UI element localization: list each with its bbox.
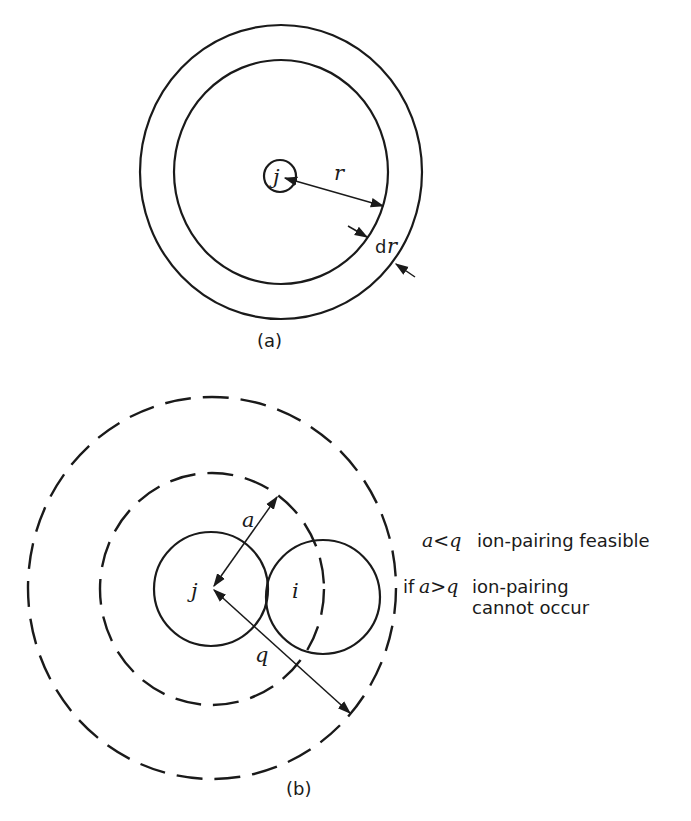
not-feasible-continuation: cannot occur: [472, 597, 590, 618]
figure-b-caption: (b): [286, 778, 311, 799]
figure-a-caption: (a): [257, 330, 282, 351]
ion-j-circle: [154, 532, 268, 646]
ion-atmosphere-diagram: j r d r (a) j i a q a<q ion-pairing feas…: [0, 0, 691, 821]
inner-shell-circle: [174, 60, 388, 284]
annotation-not-feasible: if a>q ion-pairing cannot occur: [403, 575, 590, 618]
distance-q-label: q: [255, 643, 268, 667]
annotation-feasible: a<q ion-pairing feasible: [422, 529, 650, 551]
dr-arrow-outer: [396, 264, 415, 277]
condition-a-less-q: a<q: [422, 529, 461, 551]
ion-j-label: j: [187, 579, 198, 603]
figure-a: j r d r (a): [140, 25, 422, 351]
feasible-text: ion-pairing feasible: [477, 530, 650, 551]
ion-i-label: i: [292, 579, 299, 603]
central-ion-circle: [264, 160, 296, 192]
dr-arrow-inner: [348, 226, 367, 237]
outer-shell-circle: [140, 25, 422, 319]
distance-a-label: a: [242, 508, 255, 532]
radius-label: r: [334, 161, 346, 185]
distance-q-arrow: [214, 590, 350, 713]
outer-dashed-circle-q: [28, 397, 396, 779]
condition-a-greater-q: a>q: [419, 575, 458, 597]
dr-label-d: d: [375, 236, 386, 257]
inner-dashed-circle-a: [100, 473, 324, 705]
if-prefix: if: [403, 576, 415, 597]
not-feasible-text: ion-pairing: [472, 576, 569, 597]
figure-b: j i a q a<q ion-pairing feasible if a>q …: [28, 397, 650, 799]
central-ion-label: j: [269, 165, 280, 189]
